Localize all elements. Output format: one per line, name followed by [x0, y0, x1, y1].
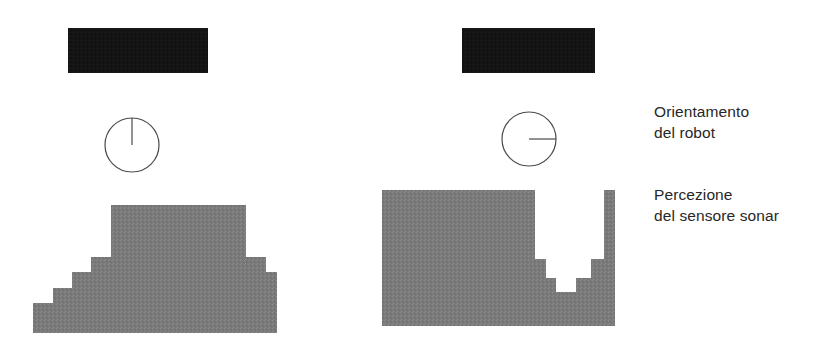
- robot-right: [502, 112, 556, 166]
- legend-robot-orientation: Orientamento del robot: [654, 101, 749, 143]
- panel-right: [382, 28, 615, 326]
- legend-orientation-line2: del robot: [654, 122, 749, 143]
- figure-canvas: [0, 0, 818, 343]
- sonar-perception-region-right: [382, 190, 615, 326]
- panel-left: [33, 28, 277, 333]
- legend-perception-line2: del sensore sonar: [654, 205, 779, 226]
- obstacle-bar-left: [68, 28, 208, 73]
- legend-sonar-perception: Percezione del sensore sonar: [654, 184, 779, 226]
- legend-orientation-line1: Orientamento: [654, 101, 749, 122]
- obstacle-bar-right: [462, 28, 595, 73]
- sonar-perception-region-left: [33, 205, 277, 333]
- legend-perception-line1: Percezione: [654, 184, 779, 205]
- sonar-perception-figure: Orientamento del robot Percezione del se…: [0, 0, 818, 343]
- robot-left: [105, 118, 159, 172]
